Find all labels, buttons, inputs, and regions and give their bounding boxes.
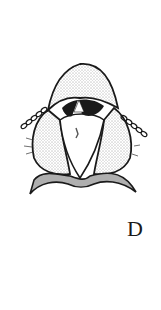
figure-panel: D	[0, 0, 161, 310]
panel-label: D	[127, 218, 143, 240]
mouthparts	[30, 173, 136, 194]
insect-head-drawing	[0, 0, 161, 200]
ocellar-region	[62, 99, 104, 116]
